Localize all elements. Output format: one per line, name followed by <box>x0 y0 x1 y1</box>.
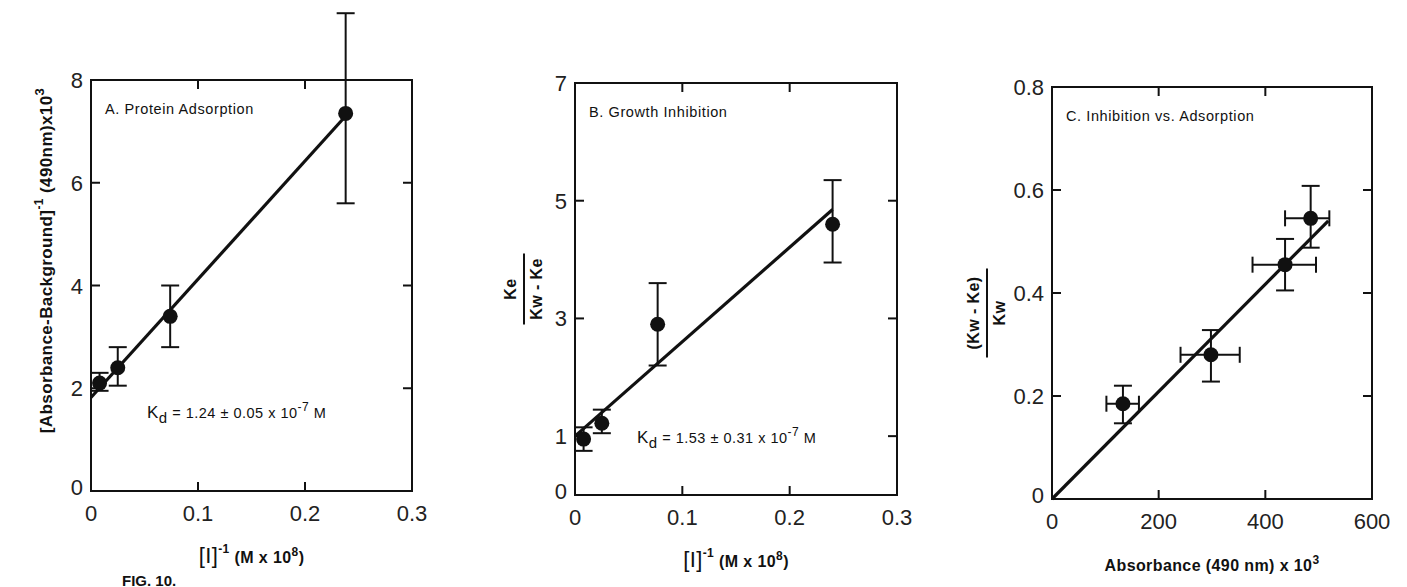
y-tick-label: 0 <box>1032 483 1044 508</box>
y-label-numerator: Ke <box>502 278 519 299</box>
plot-frame <box>91 80 412 491</box>
x-tick-label: 400 <box>1247 509 1284 534</box>
panel-title: C. Inhibition vs. Adsorption <box>1066 108 1254 124</box>
y-tick-label: 0.8 <box>1013 75 1044 100</box>
y-tick-label: 1 <box>555 424 567 449</box>
data-point <box>593 410 611 434</box>
panel-title: A. Protein Adsorption <box>105 101 254 117</box>
x-tick-label: 0 <box>85 501 97 526</box>
y-tick-label: 0 <box>555 479 567 504</box>
marker-dot <box>1303 211 1318 226</box>
y-axis-label: (Kw - Ke)Kw <box>965 269 1008 358</box>
x-tick-label: 0.3 <box>882 505 913 530</box>
figure: 00.10.20.302468A. Protein AdsorptionKd =… <box>0 0 1407 587</box>
marker-dot <box>1115 396 1130 411</box>
y-label-numerator: (Kw - Ke) <box>965 277 982 350</box>
kd-annotation: Kd = 1.24 ± 0.05 x 10-7 M <box>147 400 326 426</box>
y-tick-label: 4 <box>71 274 83 299</box>
y-tick-label: 0 <box>71 475 83 500</box>
kd-annotation: Kd = 1.53 ± 0.31 x 10-7 M <box>637 425 816 451</box>
y-tick-label: 8 <box>71 68 83 93</box>
y-tick-label: 6 <box>71 171 83 196</box>
data-point <box>109 347 127 386</box>
panel-c-inhibition-vs-adsorption: 020040060000.20.40.60.8C. Inhibition vs.… <box>965 75 1390 574</box>
x-tick-label: 0.3 <box>397 501 428 526</box>
x-tick-label: 600 <box>1354 509 1391 534</box>
marker-dot <box>594 416 609 431</box>
y-label-denominator: Kw - Ke <box>528 258 545 319</box>
marker-dot <box>338 106 353 121</box>
y-tick-label: 0.2 <box>1013 384 1044 409</box>
regression-line <box>91 116 346 398</box>
panel-title: B. Growth Inhibition <box>589 104 728 120</box>
y-axis-label: KeKw - Ke <box>502 254 545 325</box>
regression-line <box>575 210 833 437</box>
x-tick-label: 0.2 <box>290 501 321 526</box>
data-point <box>161 286 179 348</box>
y-tick-label: 7 <box>555 71 567 96</box>
y-tick-label: 3 <box>555 306 567 331</box>
y-tick-label: 0.6 <box>1013 178 1044 203</box>
x-tick-label: 0 <box>1046 509 1058 534</box>
data-point <box>649 283 667 365</box>
panel-b-growth-inhibition: 00.10.20.301357B. Growth InhibitionKd = … <box>502 71 912 572</box>
x-axis-label: [I]-1 (M x 108) <box>199 542 305 568</box>
x-tick-label: 0.1 <box>667 505 698 530</box>
marker-dot <box>1203 347 1218 362</box>
marker-dot <box>1278 257 1293 272</box>
x-axis-label: [I]-1 (M x 108) <box>683 546 789 572</box>
x-axis-label: Absorbance (490 nm) x 103 <box>1105 553 1320 574</box>
figure-caption: FIG. 10. <box>122 572 176 587</box>
data-point <box>575 427 593 451</box>
marker-dot <box>825 217 840 232</box>
data-point <box>1253 239 1316 290</box>
x-tick-label: 0.1 <box>183 501 214 526</box>
marker-dot <box>576 432 591 447</box>
marker-dot <box>92 376 107 391</box>
data-point <box>337 13 355 203</box>
data-point <box>1181 330 1240 382</box>
x-tick-label: 0.2 <box>774 505 805 530</box>
marker-dot <box>650 317 665 332</box>
data-point <box>824 180 842 262</box>
y-tick-label: 0.4 <box>1013 281 1044 306</box>
marker-dot <box>163 309 178 324</box>
x-tick-label: 0 <box>569 505 581 530</box>
y-axis-label: [Absorbance-Background]-1 (490nm)x103 <box>32 88 56 433</box>
y-tick-label: 5 <box>555 189 567 214</box>
x-tick-label: 200 <box>1140 509 1177 534</box>
y-tick-label: 2 <box>71 376 83 401</box>
marker-dot <box>110 360 125 375</box>
panel-a-protein-adsorption: 00.10.20.302468A. Protein AdsorptionKd =… <box>32 13 427 568</box>
plot-frame <box>1052 87 1372 499</box>
y-label-denominator: Kw <box>991 300 1008 325</box>
